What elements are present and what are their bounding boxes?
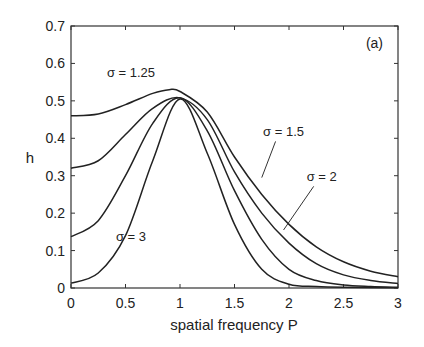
x-tick-label: 1.5: [225, 295, 245, 311]
leader-line: [262, 141, 276, 177]
x-axis-label: spatial frequency P: [170, 316, 298, 333]
curve-3: [71, 99, 398, 288]
leader-line: [284, 186, 314, 230]
sigma-label: σ = 1.5: [263, 124, 304, 139]
y-tick-label: 0.5: [46, 93, 66, 109]
y-tick-label: 0.4: [46, 130, 66, 146]
x-tick-label: 1: [176, 295, 184, 311]
y-tick-label: 0: [57, 280, 65, 296]
curve-2: [71, 98, 398, 287]
sigma-label: σ = 3: [116, 229, 146, 244]
y-tick-label: 0.1: [46, 243, 66, 259]
curves: [71, 89, 398, 288]
x-tick-label: 0: [67, 295, 75, 311]
line-chart: 00.511.522.5300.10.20.30.40.50.60.7 σ = …: [0, 0, 424, 347]
y-tick-label: 0.6: [46, 55, 66, 71]
x-tick-label: 2.5: [334, 295, 354, 311]
panel-label: (a): [366, 35, 383, 51]
y-tick-label: 0.2: [46, 205, 66, 221]
curve-1.25: [71, 89, 398, 277]
y-tick-label: 0.7: [46, 18, 66, 34]
y-axis-label: h: [26, 149, 34, 166]
y-tick-label: 0.3: [46, 168, 66, 184]
sigma-label: σ = 1.25: [107, 65, 155, 80]
x-tick-label: 3: [394, 295, 402, 311]
sigma-annotations: σ = 1.25σ = 1.5σ = 2σ = 3: [107, 65, 337, 245]
x-tick-label: 0.5: [116, 295, 136, 311]
x-tick-label: 2: [285, 295, 293, 311]
sigma-label: σ = 2: [307, 169, 337, 184]
tick-labels: 00.511.522.5300.10.20.30.40.50.60.7: [46, 18, 403, 311]
